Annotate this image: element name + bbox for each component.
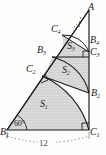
vertex-label-A: A bbox=[88, 2, 94, 13]
vertex-label-B4: B4 bbox=[90, 35, 99, 46]
vertex-label-C1: C1 bbox=[90, 127, 99, 138]
geometry-figure: A B1 C1 B2 C2 B3 C3 B4 C4 S1 S2 S3 60° 1… bbox=[0, 0, 106, 155]
dimension-label: 12 bbox=[39, 139, 48, 148]
region-label-S1: S1 bbox=[40, 99, 48, 110]
region-label-S2: S2 bbox=[62, 65, 70, 76]
vertex-label-C3: C3 bbox=[90, 47, 99, 58]
vertex-label-B3: B3 bbox=[37, 45, 46, 56]
angle-label-60: 60° bbox=[14, 120, 25, 128]
vertex-label-C2: C2 bbox=[26, 64, 35, 75]
vertex-label-B1: B1 bbox=[0, 127, 9, 138]
vertex-label-C4: C4 bbox=[51, 24, 60, 35]
region-label-S3: S3 bbox=[67, 41, 75, 52]
vertex-label-B2: B2 bbox=[91, 88, 100, 99]
